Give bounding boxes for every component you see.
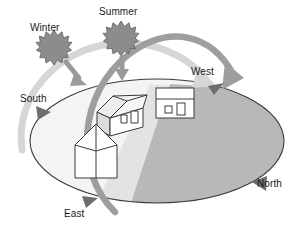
- sun-path-diagram: Winter Summer West North South East: [0, 0, 308, 235]
- label-south: South: [20, 93, 47, 104]
- label-west: West: [191, 66, 214, 77]
- winter-ray-down-arrow-icon: [66, 62, 87, 86]
- label-east: East: [64, 208, 84, 219]
- label-summer: Summer: [99, 6, 137, 17]
- house-elevation-icon: [156, 88, 194, 118]
- label-north: North: [257, 178, 282, 189]
- east-arrowhead-icon: [82, 196, 98, 208]
- diagram-canvas: [0, 0, 308, 235]
- label-winter: Winter: [30, 22, 60, 33]
